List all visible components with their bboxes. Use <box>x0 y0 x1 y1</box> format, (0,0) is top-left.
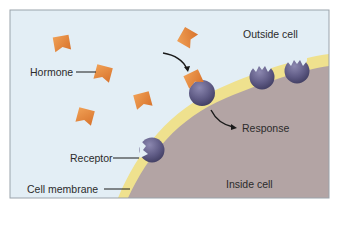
receptor-labeled <box>140 138 165 163</box>
inside-cell-label: Inside cell <box>226 179 273 190</box>
cell-membrane-label: Cell membrane <box>27 184 98 195</box>
receptor-label: Receptor <box>70 153 113 164</box>
receptor-free-2 <box>285 56 310 84</box>
receptor-free-1 <box>250 62 275 90</box>
hormone-label: Hormone <box>30 67 73 78</box>
outside-cell-label: Outside cell <box>243 29 298 40</box>
response-label: Response <box>242 123 289 134</box>
